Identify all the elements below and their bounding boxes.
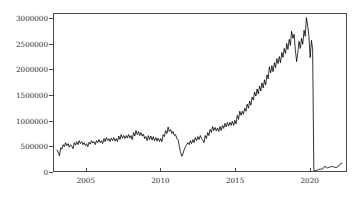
y-axis-tick-label: 3000000: [16, 14, 48, 23]
y-axis-tick-mark: [49, 172, 53, 173]
y-axis-tick-labels: 0500000100000015000002000000250000030000…: [0, 0, 48, 198]
y-axis-tick-label: 1500000: [16, 91, 48, 100]
plot-area: [53, 13, 347, 172]
line-series-path: [54, 14, 346, 171]
x-axis-tick-label: 2005: [77, 176, 95, 185]
chart-figure: 0500000100000015000002000000250000030000…: [0, 0, 361, 198]
y-axis-tick-label: 1000000: [16, 116, 48, 125]
y-axis-tick-label: 2500000: [16, 39, 48, 48]
x-axis-tick-label: 2020: [301, 176, 319, 185]
y-axis-tick-label: 0: [43, 168, 48, 177]
x-axis-tick-label: 2015: [226, 176, 244, 185]
x-axis-tick-label: 2010: [151, 176, 169, 185]
y-axis-tick-label: 500000: [21, 142, 48, 151]
y-axis-tick-label: 2000000: [16, 65, 48, 74]
